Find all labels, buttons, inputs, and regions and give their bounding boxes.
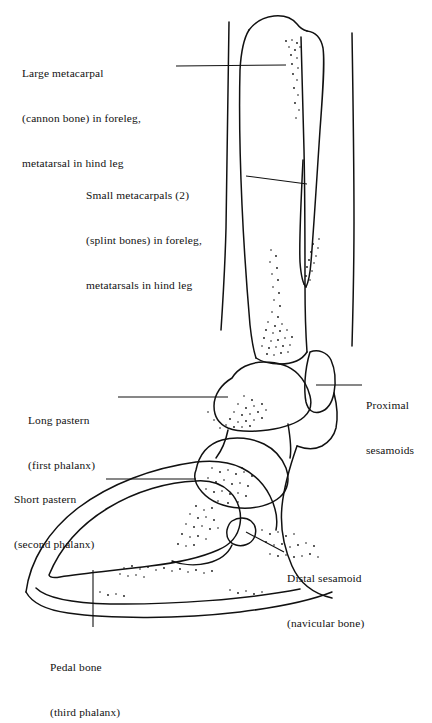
label-short-pastern-line1: Short pastern [14, 492, 95, 507]
leader-small-metacarpals [246, 176, 307, 184]
label-pedal-bone: Pedal bone (third phalanx) [50, 630, 120, 723]
label-small-metacarpals-line3: metatarsals in hind leg [86, 278, 202, 293]
stipple-cannon-head [285, 39, 301, 119]
label-small-metacarpals-line1: Small metacarpals (2) [86, 188, 202, 203]
label-distal-sesamoid-line1: Distal sesamoid [287, 571, 364, 586]
label-small-metacarpals: Small metacarpals (2) (splint bones) in … [86, 158, 202, 323]
label-proximal-sesamoids-line2: sesamoids [366, 443, 414, 458]
label-large-metacarpal-line1: Large metacarpal [22, 66, 141, 81]
label-pedal-bone-line2: (third phalanx) [50, 705, 120, 720]
hoof-inner-sole-line [36, 588, 300, 604]
anterior-tendon-line [221, 22, 229, 330]
label-small-metacarpals-line2: (splint bones) in foreleg, [86, 233, 202, 248]
stipple-long-pastern [207, 395, 267, 429]
coronet-line [242, 468, 277, 530]
proximal-sesamoid-bone [305, 351, 335, 413]
pastern-joint-line [216, 430, 228, 458]
label-short-pastern: Short pastern (second phalanx) [14, 462, 95, 582]
splint-bone-outline [306, 31, 324, 287]
leader-large-metacarpal [176, 65, 286, 66]
long-pastern-bone [214, 362, 311, 431]
label-large-metacarpal-line2: (cannon bone) in foreleg, [22, 111, 141, 126]
label-pedal-bone-line1: Pedal bone [50, 660, 120, 675]
cannon-bone-left-border [240, 30, 256, 358]
label-proximal-sesamoids-line1: Proximal [366, 398, 414, 413]
short-pastern-bone [195, 438, 288, 508]
label-proximal-sesamoids: Proximal sesamoids [366, 368, 414, 488]
label-distal-sesamoid: Distal sesamoid (navicular bone) [287, 541, 364, 661]
label-long-pastern-line1: Long pastern [28, 413, 95, 428]
label-distal-sesamoid-line2: (navicular bone) [287, 616, 364, 631]
stipple-short-pastern [205, 467, 253, 504]
label-short-pastern-line2: (second phalanx) [14, 537, 95, 552]
posterior-tendon-line-upper [352, 33, 354, 346]
pastern-joint-line-right [288, 424, 291, 458]
stipple-cannon-shaft [261, 249, 293, 356]
cannon-bone-proximal-head [249, 16, 307, 31]
